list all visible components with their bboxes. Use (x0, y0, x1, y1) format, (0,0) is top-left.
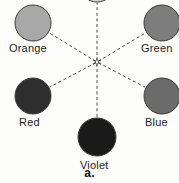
node-label-green: Green (141, 43, 173, 54)
color-wheel-figure: OrangeGreenRedBlueViolet a. (0, 0, 179, 183)
color-circle-blue (144, 78, 179, 114)
node-label-blue: Blue (145, 117, 168, 128)
figure-caption: a. (0, 166, 179, 180)
spoke-line-blue (103, 65, 145, 87)
color-circle-violet (78, 118, 116, 156)
color-circle-orange (15, 5, 51, 41)
node-label-orange: Orange (9, 43, 47, 54)
center-ray-icon (98, 63, 101, 65)
center-ray-icon (93, 60, 96, 62)
color-circle-green (144, 5, 179, 41)
color-circles-group (15, 0, 179, 156)
spoke-line-green (103, 33, 146, 59)
color-circle-yellow (79, 0, 115, 2)
wheel-diagram (0, 0, 179, 183)
color-circle-red (15, 78, 51, 114)
center-ray-icon (98, 60, 101, 62)
node-label-red: Red (19, 117, 40, 128)
spoke-line-red (50, 65, 91, 87)
center-ray-icon (93, 63, 96, 65)
center-marker-group (93, 57, 101, 66)
spoke-line-orange (49, 33, 91, 58)
